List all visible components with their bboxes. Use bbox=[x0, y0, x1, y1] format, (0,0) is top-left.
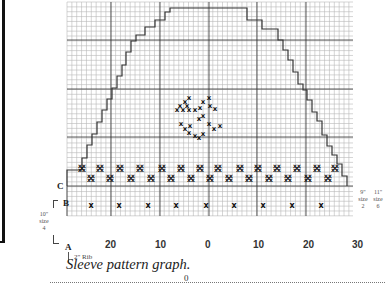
svg-text:x: x bbox=[149, 174, 153, 181]
label-c: C bbox=[57, 181, 64, 191]
svg-text:x: x bbox=[118, 164, 122, 171]
bracket-a-vert bbox=[53, 235, 54, 243]
svg-text:x: x bbox=[179, 164, 183, 171]
svg-text:x: x bbox=[286, 174, 290, 181]
svg-text:x: x bbox=[318, 201, 324, 210]
right-size-1-measure: 9" bbox=[356, 189, 370, 196]
bottom-mark: 0 bbox=[184, 273, 189, 283]
svg-text:x: x bbox=[207, 94, 212, 102]
axis-tick-20-right: 20 bbox=[303, 239, 314, 250]
svg-text:x: x bbox=[80, 164, 84, 171]
svg-text:x: x bbox=[179, 120, 184, 128]
right-size-2-number: 6 bbox=[371, 203, 385, 210]
svg-text:x: x bbox=[173, 201, 179, 210]
axis-tick-30: 30 bbox=[352, 239, 363, 250]
axis-tick-20-left: 20 bbox=[105, 239, 116, 250]
svg-text:x: x bbox=[189, 174, 193, 181]
svg-text:x: x bbox=[212, 125, 217, 133]
svg-text:x: x bbox=[267, 174, 271, 181]
right-size-label-1: 9" size 2 bbox=[356, 189, 370, 210]
svg-text:x: x bbox=[289, 201, 295, 210]
bracket-b-vert bbox=[53, 200, 54, 208]
svg-text:x: x bbox=[315, 164, 319, 171]
svg-text:x: x bbox=[160, 164, 164, 171]
right-size-1-word: size bbox=[356, 196, 370, 203]
svg-text:x: x bbox=[201, 98, 206, 106]
left-size-word: size bbox=[36, 218, 52, 225]
left-size-number: 4 bbox=[36, 225, 52, 232]
svg-text:x: x bbox=[169, 174, 173, 181]
svg-text:x: x bbox=[116, 201, 122, 210]
axis-tick-0: 0 bbox=[205, 239, 211, 250]
svg-text:x: x bbox=[187, 129, 192, 137]
label-a: A bbox=[65, 242, 72, 252]
svg-text:x: x bbox=[129, 174, 133, 181]
svg-text:x: x bbox=[175, 106, 180, 114]
svg-text:x: x bbox=[260, 201, 266, 210]
svg-text:x: x bbox=[213, 105, 218, 113]
svg-text:x: x bbox=[216, 164, 220, 171]
svg-text:x: x bbox=[247, 174, 251, 181]
cross-stitch-motifs: xxxxxxxxxxxxxxxxxxxxxxxxxxxxxxxxxxxxxxxx… bbox=[78, 94, 339, 210]
svg-text:x: x bbox=[238, 164, 242, 171]
right-size-2-measure: 11" bbox=[371, 189, 385, 196]
svg-text:x: x bbox=[88, 201, 94, 210]
right-size-1-number: 2 bbox=[356, 203, 370, 210]
svg-text:x: x bbox=[181, 106, 186, 114]
svg-text:x: x bbox=[89, 174, 93, 181]
svg-text:x: x bbox=[333, 164, 337, 171]
svg-text:x: x bbox=[197, 134, 202, 142]
right-size-label-2: 11" size 6 bbox=[371, 189, 385, 210]
label-b: B bbox=[63, 198, 69, 208]
svg-text:x: x bbox=[231, 201, 237, 210]
svg-text:x: x bbox=[295, 164, 299, 171]
svg-text:x: x bbox=[208, 174, 212, 181]
bottom-dotted-rule bbox=[50, 282, 385, 284]
svg-text:x: x bbox=[306, 174, 310, 181]
svg-text:x: x bbox=[187, 94, 192, 102]
svg-text:x: x bbox=[197, 115, 202, 123]
svg-text:x: x bbox=[145, 201, 151, 210]
svg-text:x: x bbox=[326, 174, 330, 181]
svg-text:x: x bbox=[138, 164, 142, 171]
svg-text:x: x bbox=[201, 112, 206, 120]
left-size-label: 10" size 4 bbox=[36, 211, 52, 232]
axis-tick-10-right: 10 bbox=[253, 239, 264, 250]
figure-caption: Sleeve pattern graph. bbox=[66, 256, 190, 273]
svg-text:x: x bbox=[227, 174, 231, 181]
svg-text:x: x bbox=[201, 130, 206, 138]
svg-text:x: x bbox=[275, 164, 279, 171]
right-size-2-word: size bbox=[371, 196, 385, 203]
svg-text:x: x bbox=[203, 201, 209, 210]
svg-text:x: x bbox=[108, 174, 112, 181]
left-size-measure: 10" bbox=[36, 211, 52, 218]
svg-text:x: x bbox=[256, 164, 260, 171]
svg-text:x: x bbox=[218, 122, 223, 130]
svg-text:x: x bbox=[98, 164, 102, 171]
bracket-a-tick bbox=[53, 243, 59, 244]
svg-text:x: x bbox=[187, 106, 192, 114]
axis-tick-10-left: 10 bbox=[155, 239, 166, 250]
svg-text:x: x bbox=[198, 164, 202, 171]
